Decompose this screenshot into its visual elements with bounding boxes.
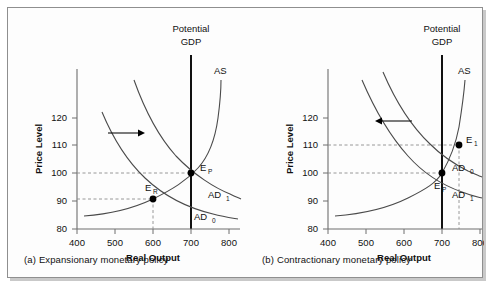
equilibrium-label-e1-sub: 1 xyxy=(474,140,478,147)
y-tick-label-110: 110 xyxy=(303,139,318,150)
equilibrium-point-ep xyxy=(188,170,195,177)
ad0-curve xyxy=(102,112,238,219)
x-tick-label-500: 500 xyxy=(107,237,123,248)
x-tick-label-800: 800 xyxy=(472,237,484,248)
panel-expansionary: Potential GDP 120 110 100 90 80 xyxy=(8,8,246,279)
ad0-curve xyxy=(383,72,482,177)
equilibrium-point-e1 xyxy=(456,142,463,149)
y-tick-label-100: 100 xyxy=(51,167,67,178)
y-tick-label-80: 80 xyxy=(56,223,67,234)
x-tick-label-800: 800 xyxy=(221,237,237,248)
x-tick-label-700: 700 xyxy=(183,237,199,248)
chart-a-svg: Potential GDP 120 110 100 90 80 xyxy=(8,8,246,279)
x-tick-label-400: 400 xyxy=(69,237,85,248)
caption-a-label: (a) xyxy=(24,254,36,265)
equilibrium-label-ep: E xyxy=(434,180,440,191)
y-axis-title: Price Level xyxy=(284,124,295,174)
y-tick-label-120: 120 xyxy=(302,112,318,123)
y-tick-label-90: 90 xyxy=(307,195,318,206)
y-tick-label-120: 120 xyxy=(51,112,67,123)
y-axis-title: Price Level xyxy=(33,124,44,174)
equilibrium-point-ep xyxy=(439,170,446,177)
as-label: AS xyxy=(458,65,471,76)
figure-frame: Potential GDP 120 110 100 90 80 xyxy=(7,7,483,278)
potential-gdp-label-line2: GDP xyxy=(432,36,453,47)
y-tick-label-80: 80 xyxy=(307,223,318,234)
potential-gdp-label-line1: Potential xyxy=(173,23,210,34)
as-label: AS xyxy=(214,65,227,76)
shift-arrow-head-left-icon xyxy=(375,118,382,125)
y-tick-label-100: 100 xyxy=(302,167,318,178)
equilibrium-label-e1: E xyxy=(466,134,472,145)
x-tick-label-400: 400 xyxy=(320,237,336,248)
ad-upper-label: AD xyxy=(208,189,221,200)
ad-lower-label-sub: 0 xyxy=(212,217,216,224)
as-curve xyxy=(84,80,221,216)
ad-lower-label: AD xyxy=(194,211,207,222)
caption-panel-b: (b)Contractionary monetary policy xyxy=(246,254,484,265)
ad-upper-label: AD xyxy=(452,162,465,173)
panel-contractionary: Potential GDP 120 110 100 90 80 400 500 … xyxy=(246,8,484,279)
ad-lower-label: AD xyxy=(452,189,465,200)
chart-b-svg: Potential GDP 120 110 100 90 80 400 500 … xyxy=(246,8,484,279)
y-tick-label-110: 110 xyxy=(52,139,67,150)
equilibrium-label-ep-sub: P xyxy=(208,168,212,175)
as-curve xyxy=(335,80,465,216)
caption-b-label: (b) xyxy=(262,254,274,265)
caption-panel-a: (a)Expansionary monetary policy xyxy=(8,254,246,265)
shift-arrow-head-right-icon xyxy=(138,130,145,137)
caption-b-text: Contractionary monetary policy xyxy=(277,254,411,265)
ad-upper-label-sub: 1 xyxy=(226,195,230,202)
ad-upper-label-sub: 0 xyxy=(470,168,474,175)
ad-lower-label-sub: 1 xyxy=(470,195,474,202)
x-tick-label-500: 500 xyxy=(358,237,374,248)
x-tick-label-600: 600 xyxy=(396,237,412,248)
equilibrium-label-ep-sub: P xyxy=(442,186,446,193)
caption-a-text: Expansionary monetary policy xyxy=(39,254,169,265)
x-tick-label-700: 700 xyxy=(434,237,450,248)
equilibrium-point-er xyxy=(150,196,157,203)
ad1-curve xyxy=(362,80,482,198)
equilibrium-label-er-sub: R xyxy=(153,188,158,195)
x-tick-label-600: 600 xyxy=(145,237,161,248)
equilibrium-label-er: E xyxy=(145,182,151,193)
equilibrium-label-ep: E xyxy=(200,162,206,173)
y-tick-label-90: 90 xyxy=(56,195,67,206)
potential-gdp-label-line1: Potential xyxy=(424,23,461,34)
potential-gdp-label-line2: GDP xyxy=(181,36,202,47)
